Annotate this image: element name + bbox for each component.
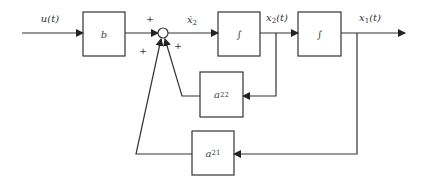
x1-signal-label: x1(t) bbox=[359, 12, 381, 25]
block-a21: a21 bbox=[192, 131, 234, 175]
block-a22: a22 bbox=[200, 72, 243, 117]
block-diagram: u(t) b + + + ẋ2 ∫ x2(t) ∫ x1(t) a22 a21 bbox=[0, 0, 421, 186]
input-signal-label: u(t) bbox=[41, 13, 59, 24]
xdot2-sub: 2 bbox=[193, 19, 197, 27]
x1-tail: (t) bbox=[369, 12, 381, 23]
integral-icon: ∫ bbox=[236, 29, 241, 40]
xdot2-signal-label: ẋ2 bbox=[187, 14, 197, 27]
integral-icon: ∫ bbox=[317, 29, 322, 40]
summing-junction bbox=[158, 28, 168, 38]
x2-tail: (t) bbox=[276, 12, 288, 23]
integrator-2: ∫ bbox=[298, 12, 341, 56]
block-b-label: b bbox=[101, 29, 107, 40]
a21-sub: 21 bbox=[212, 149, 221, 157]
sum-sign-lower-left: + bbox=[139, 46, 147, 56]
block-b: b bbox=[83, 12, 125, 56]
sum-sign-top: + bbox=[146, 14, 154, 24]
x2-signal-label: x2(t) bbox=[266, 12, 288, 25]
a22-sub: 22 bbox=[220, 91, 229, 99]
integrator-1: ∫ bbox=[218, 12, 260, 56]
sum-sign-lower-right: + bbox=[174, 41, 182, 51]
